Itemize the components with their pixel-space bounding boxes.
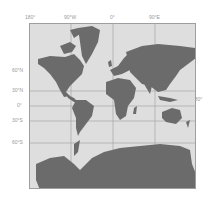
lat-label-30n: 30°N: [12, 87, 23, 93]
antarctica: [36, 144, 196, 189]
uk: [108, 60, 112, 67]
lon-label-90w: 90°W: [64, 14, 76, 20]
greenland: [78, 26, 100, 64]
lon-label-180w: 180°: [25, 14, 35, 20]
australia: [162, 108, 182, 124]
north-america: [38, 54, 84, 97]
lat-label-0: 0°: [17, 102, 22, 108]
lon-label-0: 0°: [110, 14, 115, 20]
world-map: [29, 23, 196, 189]
indonesia: [158, 96, 178, 102]
south-america: [72, 100, 94, 136]
antarctic-peninsula: [74, 140, 80, 156]
world-map-graphic: [30, 24, 196, 189]
madagascar: [133, 106, 137, 114]
lat-label-60n: 60°N: [12, 67, 23, 73]
lon-label-90e: 90°E: [149, 14, 160, 20]
arctic-islands: [60, 28, 80, 54]
africa: [106, 78, 136, 120]
asia: [126, 44, 196, 92]
lat-label-60s: 60°S: [12, 139, 23, 145]
lat-label-30s: 30°S: [12, 117, 23, 123]
